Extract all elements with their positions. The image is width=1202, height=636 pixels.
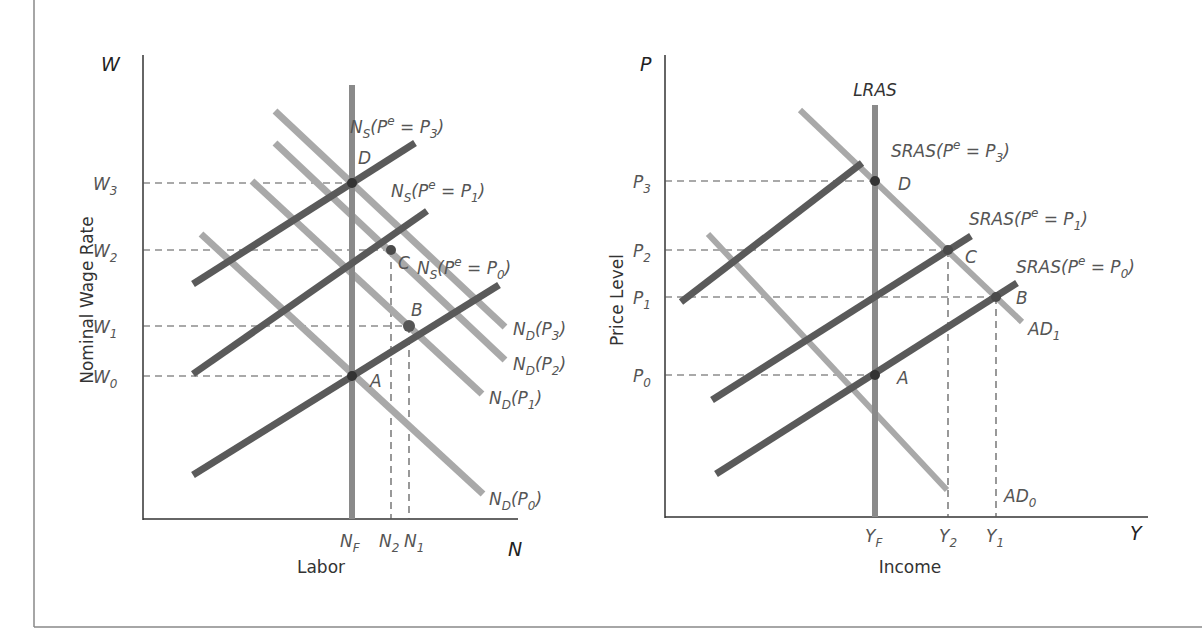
- label-ad0: AD0: [1003, 486, 1037, 510]
- point-b-label: B: [1016, 288, 1028, 308]
- labor-supply-pe-p0: [193, 285, 499, 475]
- figure-canvas: W N Nominal Wage Rate Labor: [0, 0, 1202, 636]
- right-y-ticks: P3 P2 P1 P0: [633, 172, 651, 390]
- left-y-axis-symbol: W: [101, 53, 121, 75]
- label-ns-pe-p1: NS(Pe = P1): [391, 178, 485, 205]
- point-c-label: C: [398, 253, 410, 273]
- x-tick-n1: N1: [404, 531, 424, 555]
- y-tick-p2: P2: [633, 241, 651, 265]
- lras-label: LRAS: [853, 80, 897, 100]
- label-ad1: AD1: [1027, 319, 1060, 343]
- point-b-marker: [991, 292, 1001, 302]
- right-y-axis-title: Price Level: [607, 254, 627, 346]
- point-d-marker: [870, 176, 880, 186]
- x-tick-yf: YF: [865, 526, 883, 550]
- point-b-marker: [403, 320, 415, 332]
- y-tick-p3: P3: [633, 172, 651, 196]
- labor-market-and-ad-as-figure: W N Nominal Wage Rate Labor: [0, 0, 1202, 636]
- label-ns-pe-p3: NS(Pe = P3): [350, 114, 444, 141]
- point-d-label: D: [898, 174, 911, 194]
- right-panel-ad-as-model: P Y Price Level Income LRAS: [607, 53, 1148, 577]
- sras-pe-p0: [716, 283, 1017, 474]
- point-d-label: D: [358, 148, 371, 168]
- label-sras-pe-p0: SRAS(Pe = P0): [1016, 254, 1135, 281]
- x-tick-nf: NF: [340, 531, 361, 555]
- x-tick-y2: Y2: [939, 526, 957, 550]
- label-sras-pe-p3: SRAS(Pe = P3): [891, 138, 1010, 165]
- left-x-ticks: NF N2 N1: [340, 531, 424, 555]
- point-b-label: B: [411, 300, 423, 320]
- y-tick-p1: P1: [633, 288, 651, 312]
- point-a-label: A: [369, 371, 382, 391]
- label-nd-p3: ND(P3): [513, 319, 566, 343]
- right-sras-curves: [681, 163, 1017, 474]
- point-a-marker: [347, 371, 357, 381]
- right-dashed-guides: [665, 181, 996, 517]
- point-a-marker: [870, 370, 880, 380]
- left-panel-labor-market: W N Nominal Wage Rate Labor: [77, 53, 566, 577]
- left-x-axis-title: Labor: [297, 557, 345, 577]
- point-c-marker: [386, 245, 396, 255]
- label-nd-p1: ND(P1): [489, 388, 542, 412]
- right-equilibrium-points: [870, 176, 1001, 380]
- point-c-marker: [943, 245, 953, 255]
- labor-demand-p1: [252, 181, 482, 394]
- right-x-ticks: YF Y2 Y1: [865, 526, 1004, 550]
- left-x-axis-symbol: N: [508, 538, 522, 560]
- label-nd-p2: ND(P2): [513, 354, 566, 378]
- y-tick-w3: W3: [93, 174, 117, 198]
- sras-pe-p3: [681, 163, 862, 302]
- label-sras-pe-p1: SRAS(Pe = P1): [969, 206, 1088, 233]
- y-tick-w0: W0: [93, 367, 118, 391]
- label-nd-p0: ND(P0): [489, 489, 542, 513]
- y-tick-p0: P0: [633, 366, 651, 390]
- right-ad-labels: AD1 AD0: [1003, 319, 1060, 510]
- point-d-marker: [347, 178, 357, 188]
- left-demand-labels: ND(P3) ND(P2) ND(P1) ND(P0): [489, 319, 566, 513]
- x-tick-n2: N2: [379, 531, 399, 555]
- right-x-axis-symbol: Y: [1130, 522, 1143, 544]
- right-x-axis-title: Income: [879, 557, 942, 577]
- point-c-label: C: [965, 247, 977, 267]
- right-y-axis-symbol: P: [640, 53, 652, 75]
- point-a-label: A: [896, 368, 909, 388]
- x-tick-y1: Y1: [986, 526, 1004, 550]
